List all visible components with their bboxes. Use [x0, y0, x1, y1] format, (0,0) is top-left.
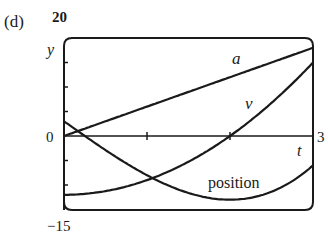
curve-position-label: position	[208, 174, 260, 192]
plot-frame	[64, 38, 313, 210]
y-axis-label: y	[45, 41, 55, 59]
curve-a	[64, 48, 313, 136]
curve-a-label: a	[232, 49, 241, 68]
t-tick-3: 3	[317, 129, 325, 145]
curve-v	[64, 63, 313, 195]
chart: (d) 20 y 0 −15 3 t a v position	[0, 0, 328, 236]
y-tick-20: 20	[52, 9, 67, 25]
panel-label: (d)	[4, 12, 24, 31]
y-tick-neg15: −15	[47, 218, 70, 234]
t-axis-label: t	[297, 142, 302, 159]
y-tick-0: 0	[46, 129, 54, 145]
curve-v-label: v	[245, 94, 253, 113]
